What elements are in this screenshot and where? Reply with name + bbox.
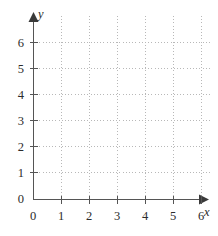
grid-canvas bbox=[0, 0, 218, 236]
x-axis-label: x bbox=[204, 206, 210, 219]
y-tick-label-0: 0 bbox=[6, 193, 24, 206]
y-tick-label-4: 4 bbox=[6, 89, 24, 102]
y-axis-arrowhead bbox=[29, 12, 39, 22]
y-axis-label: y bbox=[38, 8, 44, 21]
x-tick-label-4: 4 bbox=[136, 210, 154, 223]
y-axis bbox=[29, 12, 39, 199]
y-tick-label-1: 1 bbox=[6, 167, 24, 180]
x-tick-label-0: 0 bbox=[24, 210, 42, 223]
y-tick-label-5: 5 bbox=[6, 63, 24, 76]
y-tick-label-3: 3 bbox=[6, 115, 24, 128]
x-axis bbox=[33, 195, 209, 205]
x-tick-label-5: 5 bbox=[164, 210, 182, 223]
coordinate-grid-figure: 0 1 2 3 4 5 6 0 1 2 3 4 5 6 x y bbox=[0, 0, 218, 236]
horizontal-gridlines bbox=[33, 43, 212, 173]
vertical-gridlines bbox=[62, 16, 202, 199]
x-tick-label-2: 2 bbox=[80, 210, 98, 223]
x-tick-label-1: 1 bbox=[52, 210, 70, 223]
y-tick-label-2: 2 bbox=[6, 141, 24, 154]
y-tick-label-6: 6 bbox=[6, 37, 24, 50]
x-tick-label-3: 3 bbox=[108, 210, 126, 223]
x-axis-arrowhead bbox=[199, 195, 209, 205]
